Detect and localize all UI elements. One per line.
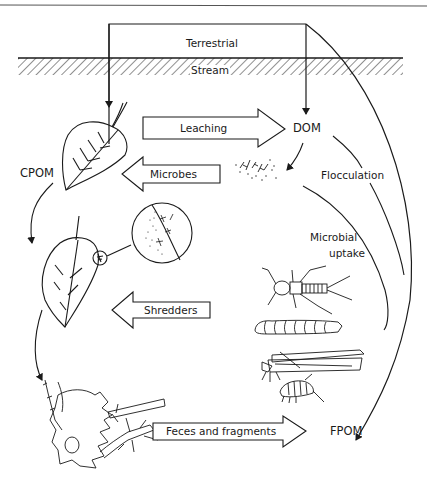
dom-label: DOM [293, 123, 321, 135]
fpom-label: FPOM [330, 426, 363, 438]
terrestrial-input-lines [109, 24, 412, 440]
top-border [0, 5, 427, 6]
cpom-label: CPOM [20, 168, 54, 180]
leaf-icon-whole [63, 102, 128, 190]
feces-and-fragments-label: Feces and fragments [166, 426, 276, 437]
stonefly-nymph-icon [262, 266, 352, 314]
caddisfly-case-icon [262, 350, 364, 382]
shredders-label: Shredders [144, 305, 197, 316]
leaf-fragments-with-shredders-icon [43, 380, 165, 468]
dom-to-floc-arrow [287, 143, 303, 170]
microbial-uptake-label-line1: Microbial [310, 232, 357, 243]
floc-particles-icon [235, 159, 276, 180]
flocculation-label: Flocculation [321, 170, 384, 181]
microbial-uptake-label-line2: uptake [329, 248, 365, 259]
amphipod-icon [280, 374, 324, 403]
cranefly-larva-icon [255, 320, 342, 334]
microbes-label: Microbes [150, 169, 197, 180]
stream-label: Stream [190, 65, 230, 76]
leaching-label: Leaching [180, 123, 227, 134]
terrestrial-label: Terrestrial [186, 38, 238, 49]
